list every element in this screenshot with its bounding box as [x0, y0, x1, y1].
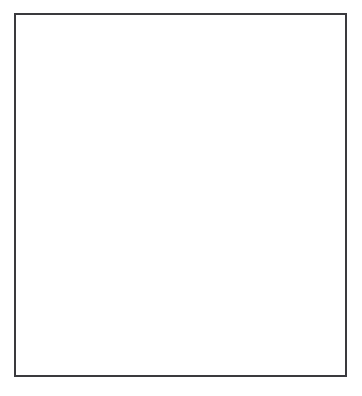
image-border-frame [14, 13, 347, 377]
cartoon-image: Snowball effect cartoon Pen-and-ink cart… [0, 0, 362, 396]
